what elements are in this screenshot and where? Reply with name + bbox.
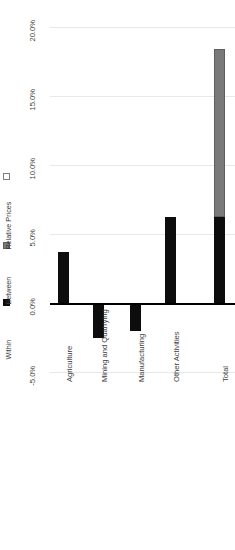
legend-item-between: Between xyxy=(0,242,18,298)
bar-segment-within xyxy=(165,217,176,303)
gridline xyxy=(50,96,235,97)
bar-segment-within xyxy=(130,303,141,331)
legend-label-within: Within xyxy=(5,298,12,360)
category-label: Manufacturing xyxy=(138,334,146,382)
value-axis-tick-label: 20.0% xyxy=(29,4,37,58)
bar-group xyxy=(130,27,141,372)
legend-label-relative-prices: Relative Prices xyxy=(5,188,12,250)
bar-group xyxy=(58,27,69,372)
gridline xyxy=(50,27,235,28)
category-axis-labels: AgricultureMining and QuarryingManufactu… xyxy=(50,372,235,550)
value-axis-tick-label: 15.0% xyxy=(29,73,37,127)
value-axis-ticks: 20.0% 15.0% 10.0% 5.0% 0.0% -5.0% xyxy=(20,0,50,400)
bar-group xyxy=(165,27,176,372)
bar-group xyxy=(214,27,225,372)
category-label: Other Activities xyxy=(173,331,181,382)
category-label: Mining and Quarrying xyxy=(101,309,109,382)
bar-segment-within xyxy=(214,217,225,303)
plot-area xyxy=(50,27,235,372)
gridline xyxy=(50,165,235,166)
bar-segment-within xyxy=(58,252,69,303)
gridline xyxy=(50,234,235,235)
value-axis-tick-label: 5.0% xyxy=(29,211,37,265)
chart-figure: Within Between Relative Prices 20.0% 15.… xyxy=(0,0,235,550)
zero-axis-line xyxy=(50,303,235,305)
value-axis-tick-label: 10.0% xyxy=(29,142,37,196)
category-label: Total xyxy=(222,366,230,382)
legend-item-relative-prices: Relative Prices xyxy=(0,173,18,229)
bar-segment-between xyxy=(214,49,225,217)
legend-item-within: Within xyxy=(0,299,18,355)
legend-label-between: Between xyxy=(5,243,12,305)
chart-legend: Within Between Relative Prices xyxy=(0,185,18,355)
legend-swatch-relative-prices-icon xyxy=(3,173,10,180)
value-axis-tick-label: -5.0% xyxy=(29,349,37,403)
value-axis-tick-label: 0.0% xyxy=(29,280,37,334)
category-label: Agriculture xyxy=(66,346,74,382)
